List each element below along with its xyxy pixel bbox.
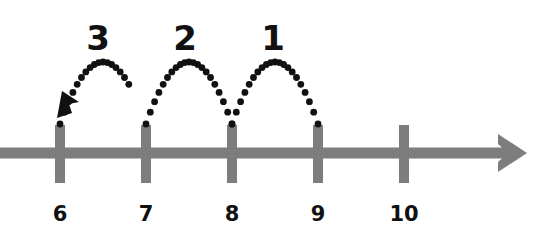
jump-arcs-group — [57, 59, 322, 128]
arc-dot — [121, 74, 128, 81]
jump-arc-3 — [57, 59, 133, 128]
arc-dot — [207, 74, 214, 81]
arc-dot — [302, 89, 309, 96]
jump-arrowhead-icon — [57, 91, 79, 118]
arc-dot — [160, 81, 167, 88]
arc-dot — [242, 89, 249, 96]
arc-dot — [250, 74, 257, 81]
jump-arc-1 — [229, 59, 322, 128]
arc-dot — [246, 81, 253, 88]
arc-dot — [151, 98, 158, 105]
arc-dot — [156, 89, 163, 96]
arc-dot — [237, 98, 244, 105]
arc-dot — [216, 89, 223, 96]
tick-label-7: 7 — [139, 202, 154, 226]
jump-arc-2 — [143, 59, 236, 128]
axis-line — [0, 148, 513, 159]
arc-dot — [78, 74, 85, 81]
arc-dot — [315, 121, 322, 128]
tick-label-6: 6 — [53, 202, 68, 226]
arc-dot — [229, 121, 236, 128]
arc-dot — [164, 74, 171, 81]
arc-dot — [82, 69, 89, 76]
tick-label-9: 9 — [311, 202, 326, 226]
axis-group — [0, 134, 527, 172]
jump-label-3: 3 — [86, 18, 110, 58]
arc-dot — [168, 69, 175, 76]
tick-mark-8 — [227, 125, 237, 183]
arc-dot — [306, 98, 313, 105]
arc-dot — [220, 98, 227, 105]
arc-dot — [57, 121, 64, 128]
tick-mark-10 — [399, 125, 409, 183]
tick-mark-9 — [313, 125, 323, 183]
tick-mark-7 — [141, 125, 151, 183]
arc-dot — [147, 109, 154, 116]
jump-label-1: 1 — [261, 18, 285, 58]
number-line-canvas: 6 7 8 9 10 3 2 1 — [0, 0, 540, 241]
arc-dot — [233, 109, 240, 116]
arc-dot — [293, 74, 300, 81]
tick-mark-6 — [55, 125, 65, 183]
arc-dot — [125, 81, 132, 88]
arc-dot — [74, 81, 81, 88]
tick-label-8: 8 — [225, 202, 240, 226]
jump-labels-group: 3 2 1 — [86, 18, 285, 58]
arc-dot — [70, 89, 77, 96]
arc-dot — [224, 109, 231, 116]
arc-dot — [211, 81, 218, 88]
arc-dot — [254, 69, 261, 76]
arc-dot — [143, 121, 150, 128]
jump-label-2: 2 — [173, 18, 197, 58]
tick-label-10: 10 — [389, 202, 418, 226]
arc-dot — [310, 109, 317, 116]
tick-labels-group: 6 7 8 9 10 — [53, 202, 419, 226]
number-line-figure: 6 7 8 9 10 3 2 1 — [0, 0, 540, 241]
arc-dot — [297, 81, 304, 88]
